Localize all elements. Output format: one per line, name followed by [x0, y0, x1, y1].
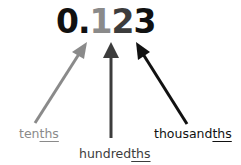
label-thousandths: thousandths	[154, 126, 232, 141]
label-tenths-stem: ten	[19, 126, 40, 141]
label-hundredths-suffix: ths	[131, 146, 150, 161]
label-thousandths-suffix: ths	[212, 126, 231, 141]
label-tenths: tenths	[19, 126, 59, 141]
label-hundredths: hundredths	[79, 146, 151, 161]
label-hundredths-stem: hundred	[79, 146, 131, 161]
label-tenths-suffix: ths	[40, 126, 59, 141]
arrow-tenths-icon	[35, 42, 87, 123]
arrow-hundredths-icon	[103, 42, 119, 138]
arrow-thousandths-icon	[136, 42, 187, 124]
label-thousandths-stem: thousand	[154, 126, 212, 141]
